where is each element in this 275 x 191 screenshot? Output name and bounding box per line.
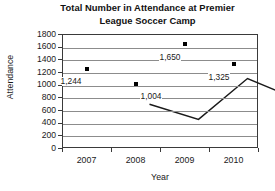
- gridline: [63, 111, 257, 112]
- x-axis-tick-mark: [209, 148, 210, 152]
- gridline: [63, 124, 257, 125]
- attendance-line-chart: Total Number in Attendance at Premier Le…: [0, 0, 275, 191]
- y-axis-tick-label: 800: [26, 93, 56, 102]
- y-axis-tick-label: 1200: [26, 68, 56, 77]
- x-axis-tick-label: 2007: [65, 155, 109, 165]
- gridline: [63, 86, 257, 87]
- y-axis-tick-mark: [58, 59, 62, 60]
- y-axis-tick-mark: [58, 123, 62, 124]
- y-axis-tick-label: 400: [26, 118, 56, 127]
- data-point-marker: [183, 42, 187, 46]
- chart-title-line-1: Total Number in Attendance at Premier: [60, 2, 234, 13]
- y-axis-tick-label: 1000: [26, 80, 56, 89]
- y-axis-tick-label: 0: [26, 144, 56, 153]
- chart-title: Total Number in Attendance at Premier Le…: [30, 2, 265, 27]
- y-axis-tick-mark: [58, 97, 62, 98]
- data-point-label: 1,244: [60, 77, 83, 86]
- y-axis-tick-label: 1400: [26, 55, 56, 64]
- y-axis-tick-mark: [58, 110, 62, 111]
- y-axis-tick-mark: [58, 85, 62, 86]
- x-axis-tick-mark: [258, 148, 259, 152]
- x-axis-tick-label: 2009: [163, 155, 207, 165]
- data-point-marker: [232, 62, 236, 66]
- gridline: [63, 136, 257, 137]
- data-point-label: 1,650: [159, 53, 182, 62]
- data-point-marker: [85, 67, 89, 71]
- data-point-label: 1,004: [140, 92, 163, 101]
- y-axis-tick-mark: [58, 135, 62, 136]
- chart-title-line-2: League Soccer Camp: [99, 15, 195, 26]
- y-axis-tick-mark: [58, 72, 62, 73]
- data-point-marker: [134, 82, 138, 86]
- y-axis-tick-mark: [58, 34, 62, 35]
- y-axis-tick-label: 600: [26, 106, 56, 115]
- gridline: [63, 48, 257, 49]
- x-axis-tick-mark: [62, 148, 63, 152]
- x-axis-tick-mark: [160, 148, 161, 152]
- x-axis-tick-label: 2010: [212, 155, 256, 165]
- x-axis-title: Year: [62, 172, 258, 182]
- y-axis-tick-labels: 180016001400120010008006004002000: [26, 34, 56, 148]
- x-axis-tick-mark: [111, 148, 112, 152]
- x-axis-tick-label: 2008: [114, 155, 158, 165]
- y-axis-tick-mark: [58, 47, 62, 48]
- y-axis-tick-label: 1600: [26, 42, 56, 51]
- data-point-label: 1,325: [208, 73, 231, 82]
- y-axis-tick-label: 1800: [26, 30, 56, 39]
- y-axis-title: Attendance: [5, 45, 15, 109]
- y-axis-tick-mark: [58, 148, 62, 149]
- y-axis-tick-label: 200: [26, 131, 56, 140]
